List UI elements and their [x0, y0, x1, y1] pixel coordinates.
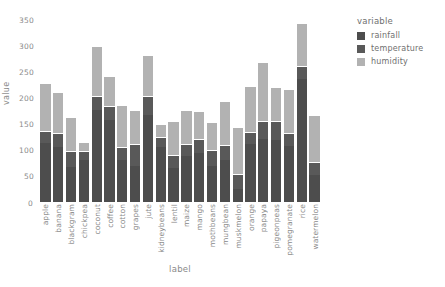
legend-swatch-temperature-icon [357, 45, 365, 53]
bar-segment-maize-rainfall [181, 156, 191, 202]
bar-segment-grapes-humidity [130, 110, 140, 144]
bar-segment-blackgram-temperature [66, 151, 76, 167]
legend: variable rainfalltemperaturehumidity [357, 16, 445, 70]
x-axis-tick-muskmelon: muskmelon [234, 204, 243, 249]
y-axis-tick-50: 50 [24, 172, 34, 181]
x-axis-tick-mothbeans: mothbeans [208, 204, 217, 247]
x-axis-tick-coconut: coconut [93, 204, 102, 235]
bar-segment-rice-temperature [297, 66, 307, 78]
bar-watermelon[interactable] [309, 20, 319, 202]
x-axis-tick-cotton: cotton [118, 204, 127, 229]
bar-segment-mothbeans-humidity [207, 122, 217, 149]
bar-segment-chickpea-rainfall [79, 160, 89, 202]
bar-segment-mango-rainfall [194, 153, 204, 202]
bar-segment-orange-humidity [245, 86, 255, 133]
bar-segment-pomegranate-humidity [284, 89, 294, 134]
bar-orange[interactable] [245, 20, 255, 202]
stacked-bar-chart: value 50100150200250300350 applebananabl… [0, 0, 445, 287]
legend-swatch-rainfall-icon [357, 32, 365, 40]
bar-banana[interactable] [53, 20, 63, 202]
legend-item-temperature[interactable]: temperature [357, 44, 445, 53]
bar-pigeonpeas[interactable] [271, 20, 281, 202]
bar-segment-blackgram-humidity [66, 117, 76, 151]
bar-segment-coconut-rainfall [92, 110, 102, 202]
legend-title: variable [357, 16, 445, 26]
y-axis-tick-350: 350 [19, 16, 34, 25]
bar-segment-maize-humidity [181, 110, 191, 144]
bar-segment-mango-humidity [194, 111, 204, 140]
bar-segment-mungbean-temperature [220, 145, 230, 160]
bar-segment-muskmelon-rainfall [233, 189, 243, 202]
bar-segment-coffee-rainfall [104, 120, 114, 202]
bar-segment-apple-temperature [40, 131, 50, 143]
bar-segment-banana-temperature [53, 133, 63, 147]
plot-area [39, 20, 321, 202]
bar-mungbean[interactable] [220, 20, 230, 202]
x-axis-title: label [0, 264, 360, 274]
x-axis-tick-grapes: grapes [131, 204, 140, 230]
bar-segment-cotton-temperature [117, 147, 127, 161]
bar-segment-watermelon-humidity [309, 115, 319, 162]
legend-swatch-humidity-icon [357, 58, 365, 66]
bar-grapes[interactable] [130, 20, 140, 202]
bar-segment-banana-humidity [53, 92, 63, 134]
bar-segment-kidneybeans-temperature [156, 137, 166, 147]
bar-chickpea[interactable] [79, 20, 89, 202]
bar-blackgram[interactable] [66, 20, 76, 202]
bar-maize[interactable] [181, 20, 191, 202]
x-axis-tick-kidneybeans: kidneybeans [157, 204, 166, 253]
bar-segment-mungbean-humidity [220, 101, 230, 145]
bar-papaya[interactable] [258, 20, 268, 202]
legend-label-temperature: temperature [371, 44, 424, 53]
bar-segment-rice-humidity [297, 23, 307, 67]
bar-mango[interactable] [194, 20, 204, 202]
legend-item-rainfall[interactable]: rainfall [357, 31, 445, 40]
bar-segment-maize-temperature [181, 144, 191, 156]
x-axis-tick-apple: apple [41, 204, 50, 225]
x-axis-tick-coffee: coffee [106, 204, 115, 228]
bar-lentil[interactable] [168, 20, 178, 202]
bar-kidneybeans[interactable] [156, 20, 166, 202]
x-axis-tick-mango: mango [195, 204, 204, 231]
bar-segment-muskmelon-temperature [233, 174, 243, 189]
y-axis-tick-100: 100 [19, 146, 34, 155]
bar-segment-blackgram-rainfall [66, 167, 76, 202]
bar-segment-chickpea-temperature [79, 151, 89, 160]
bar-segment-kidneybeans-humidity [156, 124, 166, 136]
x-axis-tick-orange: orange [247, 204, 256, 231]
bar-segment-mothbeans-rainfall [207, 166, 217, 202]
x-axis-tick-papaya: papaya [259, 204, 268, 232]
bar-segment-pigeonpeas-temperature [271, 121, 281, 140]
y-axis-tick-200: 200 [19, 94, 34, 103]
x-axis-tick-pigeonpeas: pigeonpeas [272, 204, 281, 248]
bar-rice[interactable] [297, 20, 307, 202]
x-axis-tick-chickpea: chickpea [80, 204, 89, 238]
bar-muskmelon[interactable] [233, 20, 243, 202]
x-axis-tick-banana: banana [54, 204, 63, 233]
bar-cotton[interactable] [117, 20, 127, 202]
x-axis-tick-lentil: lentil [170, 204, 179, 223]
legend-item-humidity[interactable]: humidity [357, 57, 445, 66]
bar-segment-pigeonpeas-humidity [271, 87, 281, 121]
bar-segment-orange-rainfall [245, 144, 255, 202]
bar-coconut[interactable] [92, 20, 102, 202]
bar-segment-coconut-humidity [92, 46, 102, 96]
bar-segment-lentil-rainfall [168, 168, 178, 202]
bar-jute[interactable] [143, 20, 153, 202]
y-axis-tick-250: 250 [19, 68, 34, 77]
bar-segment-mungbean-rainfall [220, 160, 230, 202]
x-axis-tick-pomegranate: pomegranate [285, 204, 294, 256]
bar-pomegranate[interactable] [284, 20, 294, 202]
bar-segment-papaya-humidity [258, 62, 268, 121]
bar-mothbeans[interactable] [207, 20, 217, 202]
bar-segment-apple-rainfall [40, 143, 50, 202]
bar-segment-papaya-temperature [258, 121, 268, 139]
bar-coffee[interactable] [104, 20, 114, 202]
x-axis-tick-jute: jute [144, 204, 153, 219]
bar-apple[interactable] [40, 20, 50, 202]
bar-segment-pigeonpeas-rainfall [271, 140, 281, 202]
bar-segment-lentil-temperature [168, 155, 178, 168]
bar-segment-chickpea-humidity [79, 142, 89, 151]
x-axis-tick-maize: maize [182, 204, 191, 227]
bar-segment-watermelon-temperature [309, 162, 319, 176]
